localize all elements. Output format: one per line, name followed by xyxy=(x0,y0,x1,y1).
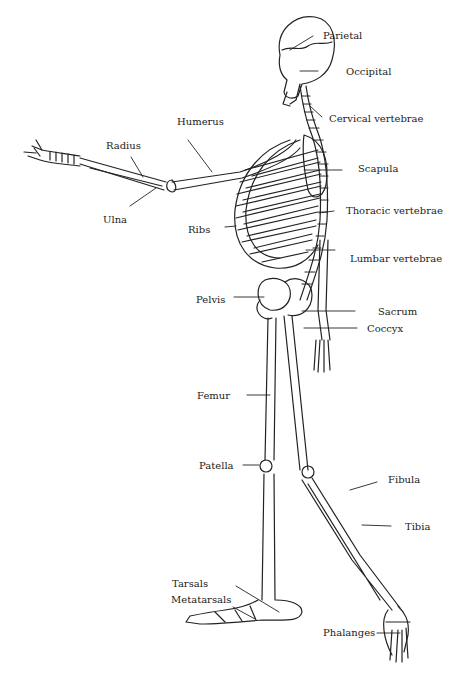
label-humerus: Humerus xyxy=(177,116,224,127)
label-ulna: Ulna xyxy=(103,214,127,225)
label-ribs: Ribs xyxy=(188,224,210,235)
label-metatarsals: Metatarsals xyxy=(171,594,231,605)
label-femur: Femur xyxy=(197,390,230,401)
label-scapula: Scapula xyxy=(358,163,398,174)
skeleton-drawing xyxy=(0,0,463,674)
right-foot xyxy=(384,606,410,662)
label-cervical-vertebrae: Cervical vertebrae xyxy=(329,113,423,124)
label-tarsals: Tarsals xyxy=(172,578,208,589)
label-coccyx: Coccyx xyxy=(367,323,403,334)
label-phalanges: Phalanges xyxy=(323,627,375,638)
label-lumbar-vertebrae: Lumbar vertebrae xyxy=(350,253,442,264)
label-pelvis: Pelvis xyxy=(196,294,225,305)
label-fibula: Fibula xyxy=(388,474,420,485)
label-thoracic-vertebrae: Thoracic vertebrae xyxy=(346,205,443,216)
label-sacrum: Sacrum xyxy=(378,306,417,317)
leader-lines xyxy=(130,36,400,633)
label-tibia: Tibia xyxy=(405,521,430,532)
ribcage xyxy=(235,140,321,268)
label-patella: Patella xyxy=(199,460,234,471)
label-radius: Radius xyxy=(106,140,141,151)
label-parietal: Parietal xyxy=(323,30,362,41)
skeleton-diagram: Parietal Occipital Cervical vertebrae Hu… xyxy=(0,0,463,674)
label-occipital: Occipital xyxy=(346,66,391,77)
legs xyxy=(260,316,400,610)
spine xyxy=(300,86,329,300)
